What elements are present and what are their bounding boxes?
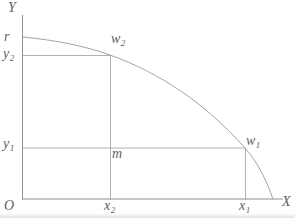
x-axis-label: X (282, 195, 291, 211)
w1-point-label-base: w (246, 133, 255, 148)
y1-tick-label-sub: 1 (10, 143, 15, 153)
m-point-label: m (112, 147, 123, 163)
origin-label-base: O (4, 198, 14, 213)
w1-point-label: w1 (246, 134, 260, 150)
math-figure: Y r y2 y1 O x2 x1 X w2 m w1 (0, 0, 295, 218)
y2-tick-label: y2 (3, 47, 14, 63)
y1-tick-label: y1 (3, 137, 14, 153)
x2-tick-label-base: x (104, 198, 110, 213)
figure-canvas (0, 0, 295, 218)
w2-point-label-sub: 2 (121, 38, 126, 48)
y2-tick-label-sub: 2 (10, 53, 15, 63)
origin-label: O (4, 199, 15, 215)
y-axis-label-base: Y (8, 0, 16, 15)
r-intercept-label: r (4, 30, 10, 46)
w1-point-label-sub: 1 (256, 140, 261, 150)
x2-tick-label-sub: 2 (111, 205, 116, 215)
x1-tick-label-sub: 1 (246, 205, 251, 215)
x2-tick-label: x2 (104, 199, 115, 215)
x1-tick-label: x1 (239, 199, 250, 215)
w2-point-label-base: w (111, 31, 120, 46)
x-axis-label-base: X (282, 194, 291, 209)
x1-tick-label-base: x (239, 198, 245, 213)
y2-tick-label-base: y (3, 46, 9, 61)
y-axis-label: Y (8, 1, 16, 17)
y1-tick-label-base: y (3, 136, 9, 151)
frontier-curve (23, 37, 274, 200)
w2-point-label: w2 (111, 32, 125, 48)
r-intercept-label-base: r (4, 29, 9, 44)
m-point-label-base: m (112, 146, 122, 161)
